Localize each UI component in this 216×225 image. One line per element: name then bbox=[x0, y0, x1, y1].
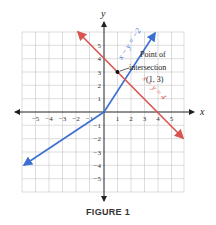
coordinate-plane: x y −5−4−3−2−1 12345 54321 −1−2−3−4−5 x … bbox=[0, 0, 216, 225]
svg-text:4: 4 bbox=[156, 115, 160, 123]
annotation-line1: Point of bbox=[140, 50, 166, 59]
svg-text:5: 5 bbox=[98, 42, 102, 50]
svg-text:−1: −1 bbox=[94, 122, 102, 130]
svg-text:2: 2 bbox=[98, 82, 102, 90]
svg-text:1: 1 bbox=[98, 95, 102, 103]
svg-text:−5: −5 bbox=[32, 115, 40, 123]
svg-text:−4: −4 bbox=[94, 162, 102, 170]
figure-caption: FIGURE 1 bbox=[0, 207, 216, 217]
svg-text:1: 1 bbox=[116, 115, 120, 123]
x-tick-labels: −5−4−3−2−1 12345 bbox=[32, 115, 174, 123]
svg-text:3: 3 bbox=[98, 69, 102, 77]
intersection-point bbox=[116, 70, 120, 74]
line-red bbox=[78, 32, 118, 72]
svg-text:2: 2 bbox=[129, 115, 133, 123]
x-axis-label: x bbox=[199, 106, 205, 117]
svg-text:−2: −2 bbox=[94, 135, 102, 143]
svg-text:3: 3 bbox=[143, 115, 147, 123]
svg-text:−4: −4 bbox=[45, 115, 53, 123]
annotation-line3: (1, 3) bbox=[146, 75, 164, 84]
svg-text:−3: −3 bbox=[94, 149, 102, 157]
annotation-arrow bbox=[120, 68, 129, 71]
svg-text:−2: −2 bbox=[72, 115, 80, 123]
y-axis-label: y bbox=[100, 8, 106, 19]
annotation-line2: intersection bbox=[129, 63, 166, 72]
svg-text:−5: −5 bbox=[94, 175, 102, 183]
svg-text:−3: −3 bbox=[59, 115, 67, 123]
svg-text:5: 5 bbox=[170, 115, 174, 123]
